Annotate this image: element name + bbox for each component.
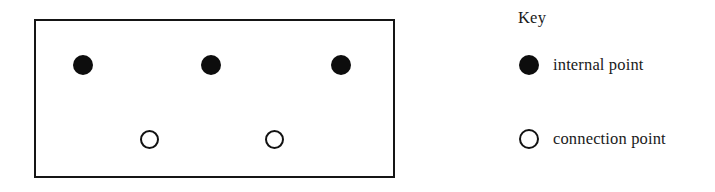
key-entry-internal-point: internal point — [500, 52, 715, 78]
key-title: Key — [518, 8, 546, 28]
key-panel: Key internal point connection point — [500, 0, 715, 192]
region-boundary-rectangle — [34, 19, 395, 178]
filled-circle-icon — [519, 55, 539, 75]
internal-point-3 — [331, 55, 351, 75]
diagram-panel — [0, 0, 440, 192]
key-entry-label-internal-point: internal point — [553, 52, 644, 78]
hollow-circle-icon — [519, 129, 539, 149]
key-entry-label-connection-point: connection point — [553, 126, 666, 152]
connection-point-2 — [265, 130, 284, 149]
connection-point-1 — [140, 130, 159, 149]
internal-point-1 — [73, 55, 93, 75]
internal-point-2 — [201, 55, 221, 75]
key-entry-connection-point: connection point — [500, 126, 715, 152]
